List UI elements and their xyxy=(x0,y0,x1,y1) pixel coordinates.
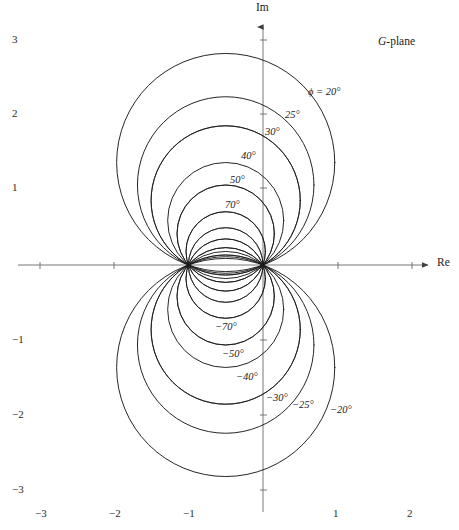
y-tick-label: −3 xyxy=(12,484,24,495)
x-tick-label: −2 xyxy=(109,508,121,519)
x-tick-label: 1 xyxy=(333,508,339,519)
x-tick-label: −3 xyxy=(35,508,47,519)
y-tick-label: 1 xyxy=(12,182,18,193)
g-plane-label: G-plane xyxy=(378,36,415,48)
y-tick-label: −1 xyxy=(12,334,24,345)
axes xyxy=(18,27,428,512)
curve-label: 25° xyxy=(285,110,300,121)
curve-label: 70° xyxy=(225,200,240,211)
x-tick-label: 2 xyxy=(407,508,413,519)
x-tick-label: −1 xyxy=(183,508,195,519)
curve-label: −20° xyxy=(330,405,352,416)
x-axis-ticks xyxy=(40,262,412,269)
g-plane-figure: −3−2−112321−1−2−3 ϕ = 20°25°30°40°50°70°… xyxy=(0,0,459,530)
g-plane-label-rest: -plane xyxy=(386,35,415,47)
curve-label: −25° xyxy=(292,400,314,411)
y-tick-label: −2 xyxy=(12,409,24,420)
y-tick-label: 3 xyxy=(12,34,18,45)
real-axis-label: Re xyxy=(437,257,450,269)
curve-label: 50° xyxy=(230,175,245,186)
curve-label: ϕ = 20° xyxy=(308,87,340,98)
curve-label: −30° xyxy=(266,393,288,404)
curve-label: −40° xyxy=(236,372,258,383)
imaginary-axis-label: Im xyxy=(256,2,269,14)
phase-locus-plot xyxy=(0,0,459,530)
curve-label: 40° xyxy=(241,151,256,162)
curve-label: −50° xyxy=(222,349,244,360)
curve-label: −70° xyxy=(215,322,237,333)
curve-label: 30° xyxy=(265,127,280,138)
y-tick-label: 2 xyxy=(12,108,18,119)
